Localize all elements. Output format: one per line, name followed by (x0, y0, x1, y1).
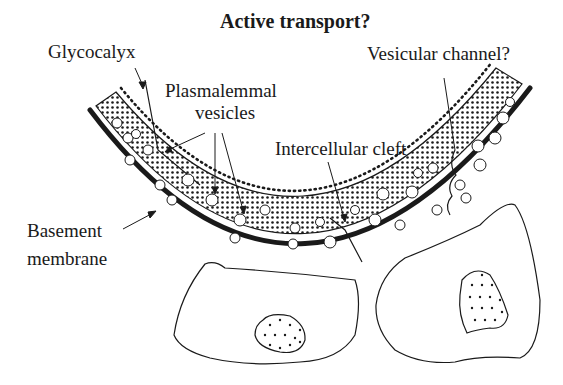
label-basement: Basement (27, 220, 102, 242)
diagram-title: Active transport? (220, 10, 371, 32)
label-vesicles: vesicles (195, 102, 255, 124)
label-plasmalemmal: Plasmalemmal (165, 80, 277, 102)
label-membrane: membrane (27, 248, 107, 270)
label-vesicular-channel: Vesicular channel? (367, 43, 510, 65)
left-cell (174, 263, 359, 364)
capillary-endothelium-diagram: Active transport? Glycocalyx Plasmalemma… (0, 0, 563, 385)
label-glycocalyx: Glycocalyx (48, 41, 136, 63)
label-intercellular-cleft: Intercellular cleft (275, 138, 406, 160)
